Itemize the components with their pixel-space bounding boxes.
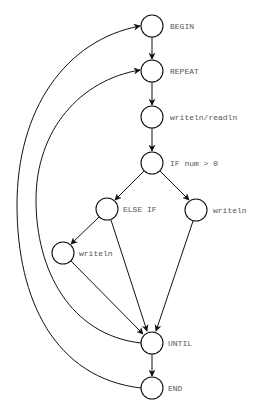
node-end: END [141, 377, 183, 399]
node-label: writeln [79, 249, 113, 258]
edge-elseif-writeln-left [71, 217, 99, 244]
node-begin: BEGIN [141, 15, 194, 37]
node-label: writeln/readln [170, 113, 237, 122]
node-writeln-right: writeln [185, 199, 247, 221]
node-until: UNTIL [141, 332, 192, 354]
edge-elseif-until [111, 220, 147, 331]
node-label: ELSE IF [123, 205, 157, 214]
node-label: writeln [213, 206, 247, 215]
edge-writeln-left-until [71, 261, 143, 334]
node-label: IF num > 0 [170, 159, 218, 168]
edge-if-writeln-right [160, 171, 189, 200]
node-label: END [168, 384, 183, 393]
control-flow-diagram: BEGIN REPEAT writeln/readln IF num > 0 E… [0, 0, 259, 402]
node-label: BEGIN [170, 22, 194, 31]
node-if: IF num > 0 [141, 152, 218, 174]
node-label: REPEAT [170, 67, 199, 76]
edge-if-elseif [115, 171, 144, 200]
edge-writeln-right-until [156, 221, 193, 331]
node-writeln-left: writeln [52, 242, 113, 264]
node-else-if: ELSE IF [96, 198, 157, 220]
node-writeln-readln: writeln/readln [141, 106, 237, 128]
node-label: UNTIL [168, 339, 192, 348]
node-repeat: REPEAT [141, 60, 199, 82]
